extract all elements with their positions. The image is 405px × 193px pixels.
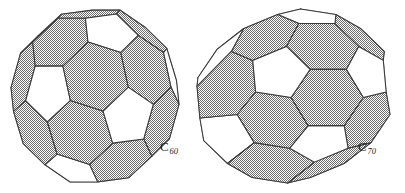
label-c70-subscript: 70 [367,146,376,156]
molecule-c70 [196,0,405,193]
label-c60-subscript: 60 [169,146,178,156]
molecule-c60 [0,0,200,193]
fullerene-figure: C60 C70 [0,0,405,193]
label-c60: C60 [160,140,177,153]
c60-cage-drawing [0,0,200,193]
label-c70: C70 [358,140,375,153]
label-c70-element: C [358,139,367,154]
label-c60-element: C [160,139,169,154]
c70-cage-drawing [196,0,405,193]
